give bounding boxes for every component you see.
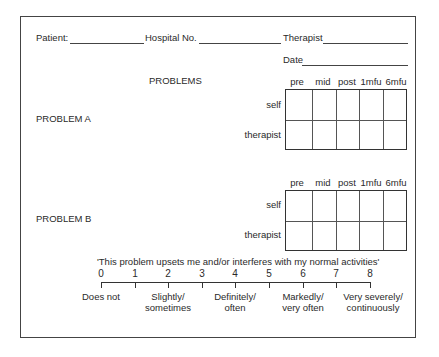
column-header: pre [285, 177, 309, 188]
scale-number: 7 [329, 268, 343, 279]
column-header: post [335, 76, 359, 87]
row-label-therapist: therapist [245, 129, 281, 140]
scale-tick [168, 282, 169, 288]
column-header: 1mfu [359, 76, 383, 87]
problems-heading: PROBLEMS [149, 75, 202, 86]
column-header: post [335, 177, 359, 188]
therapist-label: Therapist [283, 32, 323, 43]
scale-tick [101, 282, 102, 288]
scale-tick [235, 282, 236, 288]
scale-prompt: 'This problem upsets me and/or interfere… [97, 256, 379, 267]
scale-tick [269, 282, 270, 288]
scale-tick [370, 282, 371, 288]
problem-a-label: PROBLEM A [36, 113, 91, 124]
hospital-no-label: Hospital No. [145, 32, 197, 43]
column-header: 1mfu [359, 177, 383, 188]
scale-anchor-8: Very severely/ continuously [335, 291, 411, 313]
scale-number: 5 [262, 268, 276, 279]
column-header: 6mfu [384, 76, 408, 87]
date-label: Date [283, 54, 303, 65]
scale-number: 6 [296, 268, 310, 279]
row-label-self: self [266, 199, 281, 210]
scale-number: 4 [228, 268, 242, 279]
scale-tick [303, 282, 304, 288]
date-field[interactable] [302, 65, 408, 66]
column-header: mid [311, 76, 335, 87]
scale-number: 8 [363, 268, 377, 279]
column-header: mid [311, 177, 335, 188]
row-label-self: self [266, 99, 281, 110]
scale-anchor-4: Definitely/ often [200, 291, 270, 313]
scale-number: 0 [94, 268, 108, 279]
scale-anchor-6: Markedly/ very often [268, 291, 338, 313]
column-header: pre [285, 76, 309, 87]
hospital-no-field[interactable] [199, 43, 281, 44]
scale-anchor-2: Slightly/ sometimes [133, 291, 203, 313]
therapist-field[interactable] [323, 43, 408, 44]
patient-field[interactable] [70, 43, 144, 44]
problem-a-rating-grid[interactable] [285, 89, 407, 150]
row-label-therapist: therapist [245, 229, 281, 240]
scale-tick [336, 282, 337, 288]
scale-number: 3 [195, 268, 209, 279]
scale-tick [135, 282, 136, 288]
scale-number: 2 [161, 268, 175, 279]
column-header: 6mfu [384, 177, 408, 188]
problem-b-rating-grid[interactable] [285, 190, 407, 251]
problem-b-label: PROBLEM B [36, 213, 91, 224]
patient-label: Patient: [36, 32, 68, 43]
scale-tick [202, 282, 203, 288]
scale-anchor-0: Does not [66, 291, 136, 302]
scale-number: 1 [128, 268, 142, 279]
